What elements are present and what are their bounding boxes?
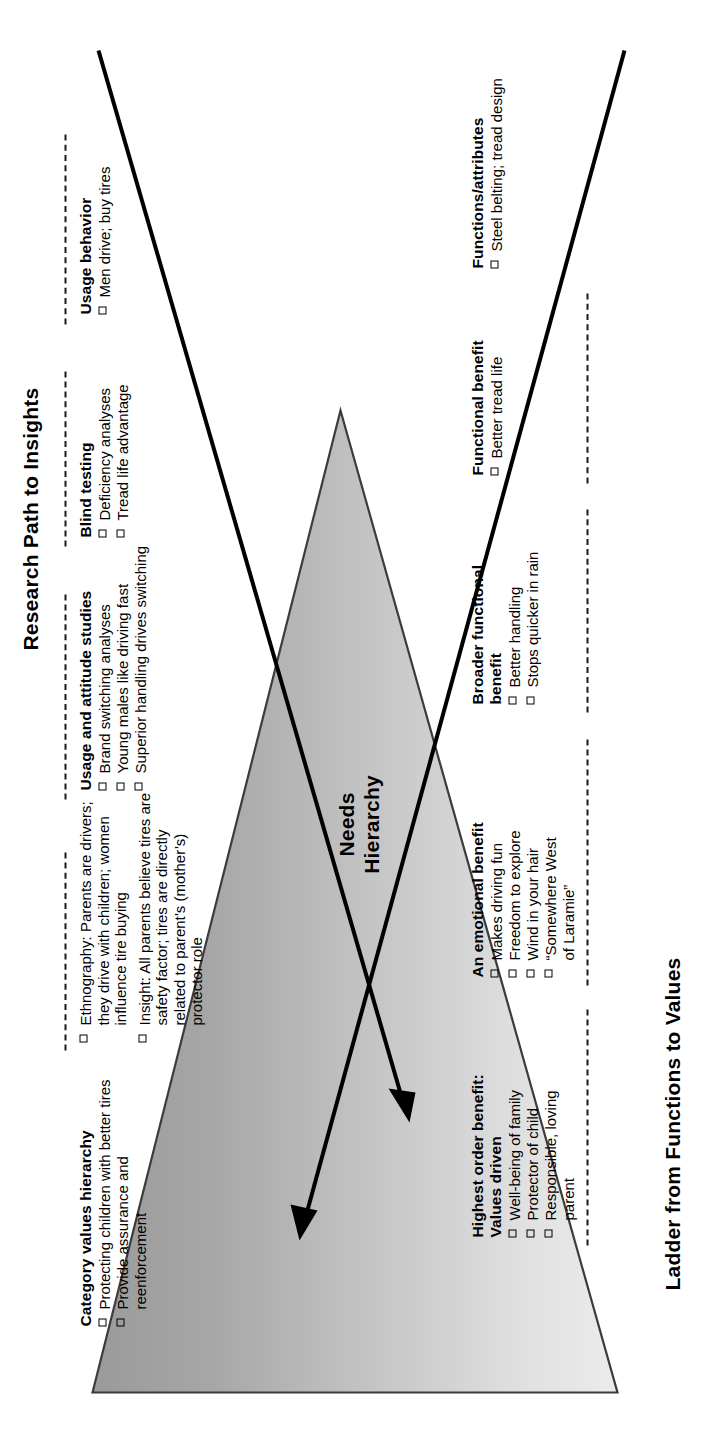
ladder-block-functional-benefit: Functional benefit Better tread life — [468, 285, 505, 475]
separator-research-4 — [64, 134, 66, 324]
list-item-label: Protector of child — [523, 1107, 540, 1220]
list-item: Protector of child — [523, 1047, 541, 1237]
checkbox-icon[interactable] — [138, 1034, 146, 1042]
separator-research-2 — [64, 594, 66, 799]
ladder-block-items: Better handling Stops quicker in rain — [505, 514, 541, 704]
checkbox-icon[interactable] — [490, 969, 498, 977]
diagram-stage: Research Path to Insights Ladder from Fu… — [0, 0, 721, 1440]
research-block-category-values-hierarchy: Category values hierarchy Protecting chi… — [76, 1064, 149, 1326]
list-item: Brand switching analyses — [95, 540, 113, 790]
research-block-items: Protecting children with better tires Pr… — [95, 1064, 148, 1326]
list-item-label: “Somewhere West of Laramie” — [541, 837, 576, 960]
separator-research-3 — [64, 371, 66, 546]
research-block-title: Blind testing — [76, 322, 94, 537]
list-item: Ethnography: Parents are drivers; they d… — [76, 780, 129, 1042]
checkbox-icon[interactable] — [526, 969, 534, 977]
list-item: Tread life advantage — [113, 322, 131, 537]
list-item-label: Makes driving fun — [487, 842, 504, 960]
checkbox-icon[interactable] — [98, 529, 106, 537]
ladder-block-title: Functional benefit — [468, 285, 486, 475]
list-item-label: Well-being of family — [505, 1089, 522, 1220]
checkbox-icon[interactable] — [98, 782, 106, 790]
list-item-label: Wind in your hair — [523, 847, 540, 960]
list-item-label: Deficiency analyses — [95, 387, 112, 520]
list-item-label: Men drive; buy tires — [95, 166, 112, 297]
research-block-items: Deficiency analyses Tread life advantage — [95, 322, 131, 537]
ladder-block-items: Makes driving fun Freedom to explore Win… — [487, 787, 576, 977]
list-item-label: Tread life advantage — [113, 384, 130, 520]
ladder-block-title-line1: Broader functional — [468, 514, 486, 704]
list-item: Protecting children with better tires — [95, 1064, 113, 1326]
list-item-label: Insight: All parents believe tires are s… — [135, 792, 205, 1025]
list-item-label: Stops quicker in rain — [523, 551, 540, 687]
ladder-title: Ladder from Functions to Values — [660, 957, 684, 1290]
ladder-block-broader-functional-benefit: Broader functional benefit Better handli… — [468, 514, 541, 704]
separator-ladder-4 — [586, 293, 588, 483]
needs-hierarchy-label-line2: Hierarchy — [359, 764, 384, 884]
ladder-block-title: Broader functional benefit — [468, 514, 504, 704]
research-block-items: Ethnography: Parents are drivers; they d… — [76, 780, 205, 1042]
checkbox-icon[interactable] — [544, 969, 552, 977]
list-item-label: Superior handling drives switching — [131, 545, 148, 773]
research-path-title: Research Path to Insights — [18, 387, 42, 650]
ladder-block-title: Functions/attributes — [468, 18, 486, 268]
ladder-block-items: Better tread life — [487, 285, 505, 475]
research-block-usage-attitude-studies: Usage and attitude studies Brand switchi… — [76, 540, 149, 790]
ladder-block-title: An emotional benefit — [468, 787, 486, 977]
list-item-label: Provide assurance and reenforcement — [113, 1156, 148, 1309]
list-item-label: Better tread life — [487, 356, 504, 458]
checkbox-icon[interactable] — [544, 1229, 552, 1237]
checkbox-icon[interactable] — [526, 1229, 534, 1237]
list-item: Steel belting; tread design — [487, 18, 505, 268]
list-item-label: Young males like driving fast — [113, 583, 130, 773]
checkbox-icon[interactable] — [116, 782, 124, 790]
ladder-block-title-line2: Values driven — [486, 1047, 504, 1237]
checkbox-icon[interactable] — [526, 696, 534, 704]
ladder-block-items: Well-being of family Protector of child … — [505, 1047, 576, 1237]
list-item: “Somewhere West of Laramie” — [541, 832, 576, 977]
separator-ladder-1 — [586, 1009, 588, 1245]
ladder-block-emotional-benefit: An emotional benefit Makes driving fun F… — [468, 787, 577, 977]
research-block-items: Brand switching analyses Young males lik… — [95, 540, 149, 790]
checkbox-icon[interactable] — [490, 467, 498, 475]
ladder-block-title-line1: Highest order benefit: — [468, 1047, 486, 1237]
ladder-block-title: Highest order benefit: Values driven — [468, 1047, 504, 1237]
checkbox-icon[interactable] — [490, 260, 498, 268]
research-block-blind-testing: Blind testing Deficiency analyses Tread … — [76, 322, 131, 537]
ladder-block-items: Steel belting; tread design — [487, 18, 505, 268]
checkbox-icon[interactable] — [98, 1318, 106, 1326]
separator-ladder-2 — [586, 739, 588, 985]
checkbox-icon[interactable] — [79, 1034, 87, 1042]
ladder-block-highest-order-benefit: Highest order benefit: Values driven Wel… — [468, 1047, 577, 1237]
checkbox-icon[interactable] — [134, 782, 142, 790]
list-item-label: Freedom to explore — [505, 830, 522, 960]
list-item: Wind in your hair — [523, 787, 541, 977]
list-item: Insight: All parents believe tires are s… — [135, 780, 205, 1042]
research-block-ethnography-insight: Ethnography: Parents are drivers; they d… — [76, 780, 205, 1042]
list-item: Deficiency analyses — [95, 322, 113, 537]
list-item: Well-being of family — [505, 1047, 523, 1237]
list-item: Better tread life — [487, 285, 505, 475]
checkbox-icon[interactable] — [508, 1229, 516, 1237]
needs-hierarchy-label-line1: Needs — [334, 764, 359, 884]
list-item-label: Better handling — [505, 586, 522, 687]
research-block-title: Category values hierarchy — [76, 1064, 94, 1326]
list-item: Men drive; buy tires — [95, 99, 113, 314]
separator-research-1 — [64, 852, 66, 1050]
checkbox-icon[interactable] — [116, 529, 124, 537]
ladder-block-title-line2: benefit — [486, 514, 504, 704]
checkbox-icon[interactable] — [508, 696, 516, 704]
rotated-page-canvas: Research Path to Insights Ladder from Fu… — [0, 0, 721, 1440]
list-item-label: Steel belting; tread design — [487, 78, 504, 251]
checkbox-icon[interactable] — [508, 969, 516, 977]
list-item: Stops quicker in rain — [523, 514, 541, 704]
list-item-label: Protecting children with better tires — [95, 1079, 112, 1309]
research-block-usage-behavior: Usage behavior Men drive; buy tires — [76, 99, 113, 314]
list-item: Responsible, loving parent — [541, 1047, 576, 1237]
list-item: Young males like driving fast — [113, 540, 131, 790]
separator-ladder-3 — [586, 509, 588, 712]
checkbox-icon[interactable] — [98, 306, 106, 314]
list-item: Makes driving fun — [487, 787, 505, 977]
list-item-label: Ethnography: Parents are drivers; they d… — [76, 801, 128, 1025]
checkbox-icon[interactable] — [116, 1318, 124, 1326]
